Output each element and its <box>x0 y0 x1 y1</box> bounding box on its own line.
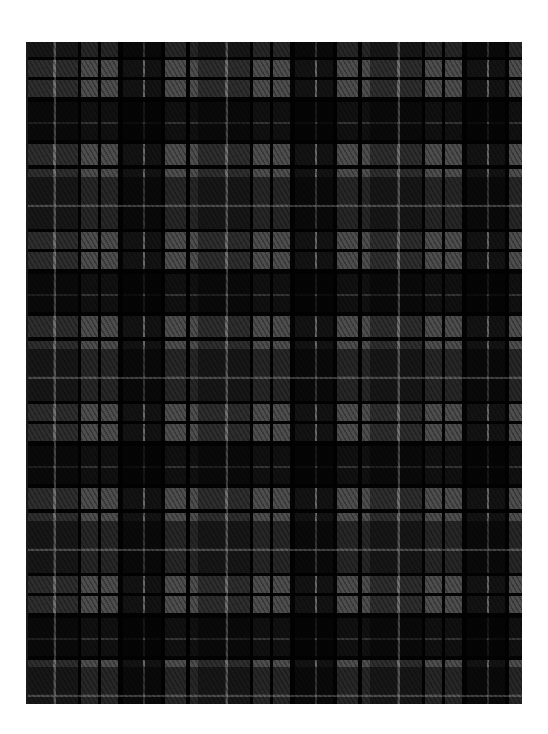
swatch-left-edge <box>26 42 28 704</box>
twill-texture <box>26 42 522 704</box>
tartan-swatch <box>26 42 522 704</box>
